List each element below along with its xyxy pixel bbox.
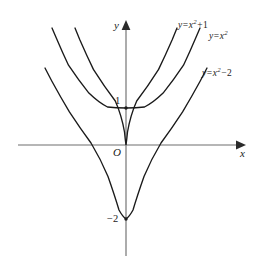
y-axis-arrowhead	[122, 20, 131, 30]
parabola-figure: x y O 1 −2 y=x2+1 y=x2 y=x2−2	[0, 0, 265, 266]
curve-label-constant: 2	[227, 68, 232, 78]
y-axis-label: y	[114, 20, 119, 31]
origin-label: O	[113, 147, 121, 158]
curve-label-y-equals-x-squared: y=x2	[209, 30, 228, 42]
curve-label-y-equals-x-squared-plus-1: y=x2+1	[178, 19, 208, 31]
curve-label-exponent: 2	[224, 29, 228, 36]
x-axis-label: x	[240, 148, 245, 159]
tick-label-1: 1	[115, 96, 120, 107]
curve-label-constant: 1	[203, 20, 208, 30]
tick-dot-y-minus-2	[124, 217, 127, 220]
tick-dot-y-1	[124, 106, 127, 109]
tick-label-minus-2: −2	[107, 214, 118, 225]
x-axis	[18, 141, 246, 150]
curve-label-y-equals-x-squared-minus-2: y=x2−2	[202, 67, 232, 79]
